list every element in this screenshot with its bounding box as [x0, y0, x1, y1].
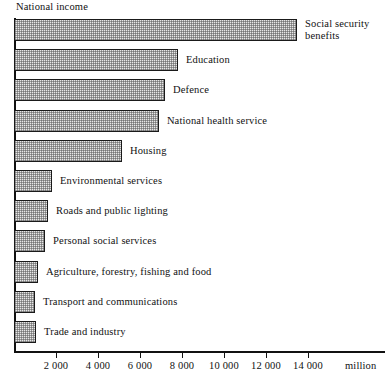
x-axis-tick [308, 352, 309, 358]
bar-chart: National income Social securitybenefitsE… [0, 0, 391, 381]
bar[interactable] [14, 110, 159, 132]
x-axis-tick [98, 352, 99, 358]
bar-label: Transport and communications [43, 296, 177, 308]
bar-label: National health service [167, 114, 267, 126]
bar-label: Housing [130, 145, 167, 157]
bar[interactable] [14, 321, 36, 343]
plot-area: Social securitybenefitsEducationDefenceN… [0, 0, 391, 381]
x-axis-tick-label: 4 000 [86, 360, 110, 371]
x-axis-line [14, 351, 385, 353]
x-axis-unit-label: million [345, 360, 376, 371]
bar[interactable] [14, 49, 178, 71]
bar[interactable] [14, 291, 35, 313]
bar[interactable] [14, 79, 165, 101]
x-axis-tick [56, 352, 57, 358]
bar-label: Environmental services [60, 175, 162, 187]
x-axis-tick-label: 6 000 [128, 360, 152, 371]
x-axis-tick [266, 352, 267, 358]
bar-label: Education [186, 54, 230, 66]
x-axis-tick-label: 14 000 [293, 360, 323, 371]
x-axis-tick-label: 8 000 [170, 360, 194, 371]
bar-label: Trade and industry [44, 326, 126, 338]
x-axis-tick [182, 352, 183, 358]
x-axis-tick [140, 352, 141, 358]
x-axis-tick-label: 12 000 [251, 360, 281, 371]
bar[interactable] [14, 140, 122, 162]
bar-label: Roads and public lighting [56, 205, 168, 217]
x-axis-tick-label: 10 000 [209, 360, 239, 371]
bar-label: Agriculture, forestry, fishing and food [46, 265, 212, 277]
bar-label: Personal social services [53, 235, 156, 247]
bar[interactable] [14, 230, 45, 252]
bar[interactable] [14, 19, 297, 41]
bar-label: Social securitybenefits [305, 18, 369, 43]
x-axis-tick-label: 2 000 [44, 360, 68, 371]
bar[interactable] [14, 170, 52, 192]
x-axis-tick [224, 352, 225, 358]
bar-label: Defence [173, 84, 209, 96]
bar[interactable] [14, 261, 38, 283]
bar[interactable] [14, 200, 48, 222]
